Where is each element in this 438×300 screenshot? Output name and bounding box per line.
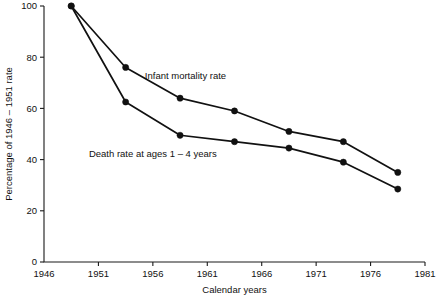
x-axis-tick-label: 1961 — [197, 268, 218, 279]
chart-figure: 0204060801001946195119561961196619711976… — [0, 0, 438, 300]
series-line-2 — [71, 6, 398, 189]
series-1-data-point — [340, 139, 346, 145]
x-axis-tick-label: 1946 — [33, 268, 54, 279]
y-axis-tick-label: 20 — [26, 205, 37, 216]
x-axis-tick-label: 1966 — [251, 268, 272, 279]
x-axis-tick-label: 1951 — [88, 268, 109, 279]
x-axis-tick-label: 1971 — [306, 268, 327, 279]
series-2-data-point — [286, 145, 292, 151]
series-1-data-point — [395, 169, 401, 175]
x-axis-tick-label: 1976 — [360, 268, 381, 279]
series-2-data-point — [123, 99, 129, 105]
x-axis-title: Calendar years — [202, 284, 267, 295]
x-axis-tick-label: 1981 — [414, 268, 435, 279]
y-axis-tick-label: 0 — [32, 256, 37, 267]
y-axis-tick-label: 40 — [26, 154, 37, 165]
y-axis-tick-label: 80 — [26, 52, 37, 63]
x-axis-tick-label: 1956 — [142, 268, 163, 279]
line-chart-plot: 0204060801001946195119561961196619711976… — [0, 0, 438, 300]
series-1-data-point — [231, 108, 237, 114]
series-2-data-point — [177, 132, 183, 138]
series-2-data-point — [340, 159, 346, 165]
series-1-data-point — [177, 95, 183, 101]
chart-axes — [44, 6, 425, 262]
series-label-2: Death rate at ages 1 – 4 years — [89, 148, 217, 159]
series-1-data-point — [286, 128, 292, 134]
series-2-data-point — [395, 186, 401, 192]
series-1-data-point — [123, 64, 129, 70]
series-label-1: Infant mortality rate — [145, 70, 226, 81]
y-axis-tick-label: 60 — [26, 103, 37, 114]
series-2-data-point — [231, 139, 237, 145]
series-2-data-point — [68, 3, 74, 9]
y-axis-title: Percentage of 1946 – 1951 rate — [3, 67, 14, 201]
y-axis-tick-label: 100 — [21, 0, 37, 11]
